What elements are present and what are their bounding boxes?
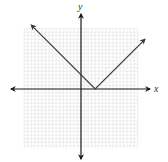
y-axis-label: y [77,1,83,12]
background [0,0,168,162]
graph-canvas: x y [0,0,168,162]
x-axis-label: x [153,83,159,94]
